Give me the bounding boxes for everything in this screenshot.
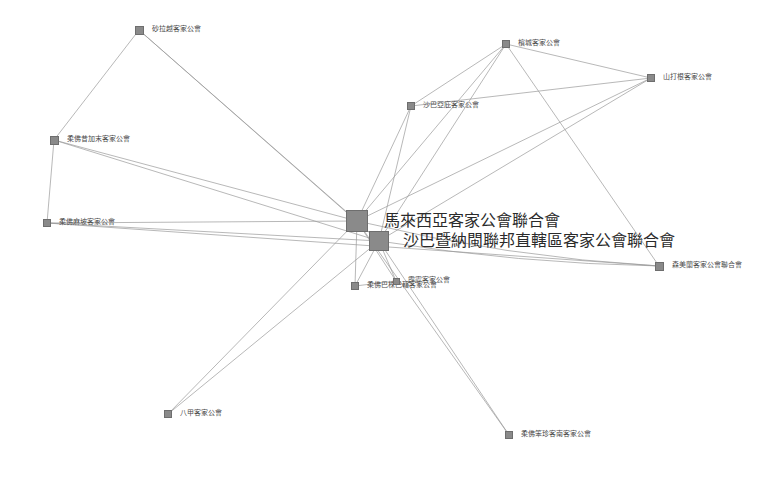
graph-node[interactable] xyxy=(647,74,655,82)
graph-edges-layer xyxy=(0,0,780,479)
graph-edge xyxy=(379,44,506,241)
graph-edge xyxy=(47,221,357,223)
graph-edge xyxy=(47,140,54,223)
graph-edge xyxy=(357,221,509,435)
graph-node[interactable] xyxy=(135,26,144,35)
graph-edge xyxy=(506,44,659,266)
graph-node[interactable] xyxy=(346,210,368,232)
graph-edge xyxy=(379,241,509,435)
graph-node[interactable] xyxy=(43,219,51,227)
graph-edge xyxy=(355,281,396,286)
graph-edge xyxy=(379,241,659,266)
graph-edge xyxy=(506,44,651,78)
graph-node[interactable] xyxy=(407,102,415,110)
network-graph-canvas: 馬來西亞客家公會聯合會沙巴暨納閩聯邦直轄區客家公會聯合會砂拉越客家公會柔佛昔加末… xyxy=(0,0,780,479)
graph-edge xyxy=(357,44,506,221)
graph-edge xyxy=(54,30,139,140)
graph-edge xyxy=(379,78,651,241)
graph-edge xyxy=(168,221,357,414)
graph-edge xyxy=(357,221,659,266)
graph-node[interactable] xyxy=(393,278,400,285)
graph-node[interactable] xyxy=(50,136,59,145)
graph-node[interactable] xyxy=(502,40,510,48)
graph-edge xyxy=(54,140,357,221)
graph-node[interactable] xyxy=(655,262,664,271)
graph-edge xyxy=(357,78,651,221)
graph-edge xyxy=(139,30,379,241)
graph-edge xyxy=(379,106,411,241)
graph-edge xyxy=(168,241,379,414)
graph-node[interactable] xyxy=(369,231,389,251)
graph-node[interactable] xyxy=(351,282,359,290)
graph-node[interactable] xyxy=(164,410,172,418)
graph-node[interactable] xyxy=(505,431,513,439)
